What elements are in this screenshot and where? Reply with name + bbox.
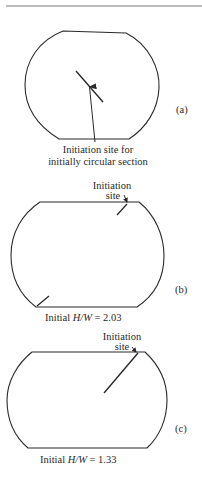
annotation-b-line2: site bbox=[106, 190, 121, 201]
crack-b-top bbox=[117, 204, 127, 215]
crack-a bbox=[76, 71, 103, 102]
section-outline-a bbox=[25, 31, 159, 139]
section-outline-c bbox=[7, 352, 167, 448]
initiation-arrow-b bbox=[124, 195, 127, 202]
crack-b-bottom bbox=[37, 296, 49, 306]
panel-b: Initiation site (b) Initial H/W = 2.03 bbox=[11, 180, 188, 323]
caption-c: Initial H/W = 1.33 bbox=[40, 454, 117, 465]
annotation-a-line2: initially circular section bbox=[48, 156, 148, 167]
panel-label-a: (a) bbox=[176, 104, 188, 116]
panel-label-b: (b) bbox=[175, 284, 188, 296]
annotation-c-line2: site bbox=[115, 341, 130, 352]
figure-canvas: Initiation site for initially circular s… bbox=[0, 0, 202, 484]
annotation-a-line1: Initiation site for bbox=[63, 144, 134, 155]
initiation-arrow-a bbox=[90, 87, 96, 142]
crack-c bbox=[104, 353, 138, 393]
caption-b: Initial H/W = 2.03 bbox=[45, 312, 122, 323]
panel-c: Initiation site (c) Initial H/W = 1.33 bbox=[7, 331, 187, 465]
panel-label-c: (c) bbox=[175, 423, 187, 435]
section-outline-b bbox=[11, 202, 164, 307]
panel-a: Initiation site for initially circular s… bbox=[25, 31, 188, 167]
initiation-arrow-c bbox=[132, 347, 136, 352]
